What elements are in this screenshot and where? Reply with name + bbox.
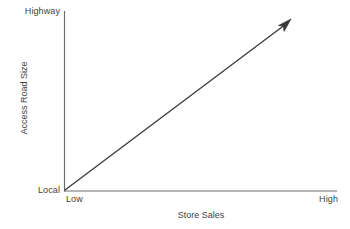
chart-container: Highway Local Low High Store Sales Acces… (0, 0, 350, 229)
y-axis-bottom-tick-label: Local (0, 185, 60, 195)
x-axis-right-tick-label: High (240, 194, 338, 204)
y-axis-top-tick-label: Highway (0, 6, 60, 16)
x-axis-left-tick-label: Low (66, 194, 83, 204)
x-axis-title: Store Sales (64, 210, 338, 220)
trend-line (65, 24, 286, 190)
y-axis-title: Access Road Size (19, 18, 29, 178)
trend-arrowhead-icon (279, 19, 292, 31)
